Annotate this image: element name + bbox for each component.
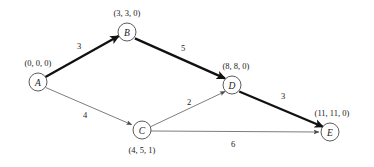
- node-b-label: B: [124, 28, 130, 38]
- node-b: B: [118, 23, 136, 41]
- node-e-label: E: [326, 128, 333, 138]
- edge-weight-c-e: 6: [231, 139, 235, 149]
- node-b-tuple: (3, 3, 0): [114, 8, 141, 18]
- node-e-tuple: (11, 11, 0): [315, 108, 350, 118]
- edge-a-to-b: [45, 36, 118, 77]
- node-tuple-labels: (0, 0, 0) (3, 3, 0) (4, 5, 1) (8, 8, 0) …: [25, 8, 350, 155]
- node-a-tuple: (0, 0, 0): [25, 58, 52, 68]
- edge-weight-a-c: 4: [83, 110, 88, 120]
- node-d-tuple: (8, 8, 0): [223, 61, 250, 71]
- edge-c-to-e: [151, 131, 319, 132]
- node-c-label: C: [139, 126, 146, 136]
- node-a: A: [29, 73, 47, 91]
- edge-weight-c-d: 2: [187, 97, 191, 107]
- edge-weight-b-d: 5: [181, 43, 185, 53]
- node-e: E: [321, 123, 339, 141]
- edge-weight-a-b: 3: [77, 41, 81, 51]
- node-c: C: [133, 121, 151, 139]
- graph-canvas: 3 5 3 4 2 6 A B C D: [0, 0, 374, 167]
- node-d-label: D: [228, 81, 236, 91]
- edge-weight-labels: 3 5 3 4 2 6: [77, 41, 285, 149]
- edge-weight-d-e: 3: [281, 91, 285, 101]
- nodes-layer: A B C D E: [29, 23, 339, 141]
- edge-a-to-c: [46, 88, 132, 125]
- graph-diagram: 3 5 3 4 2 6 A B C D: [0, 0, 374, 167]
- node-a-label: A: [34, 78, 41, 88]
- node-c-tuple: (4, 5, 1): [129, 145, 156, 155]
- node-d: D: [223, 76, 241, 94]
